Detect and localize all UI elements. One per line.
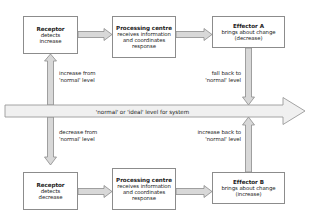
arrow-receptor-bottom-to-processing-bottom (78, 186, 112, 198)
node-effector-a[interactable]: Effector A brings about change (decrease… (212, 16, 285, 48)
label-increase-back-to-normal: increase back to 'normal' level (169, 129, 241, 143)
node-receptor-bottom-line2: decrease (39, 194, 63, 200)
arrow-processing-bottom-to-effector-b (176, 186, 212, 198)
node-processing-centre-bottom-line3: response (132, 195, 156, 201)
node-effector-b-line2: (increase) (235, 191, 261, 197)
node-processing-centre-top-line3: response (132, 43, 156, 49)
arrow-increase-back-to-normal (243, 117, 255, 172)
arrow-processing-top-to-effector-a (176, 29, 212, 41)
label-increase-back-to-normal-line2: 'normal' level (169, 136, 241, 143)
label-fall-back-to-normal-line1: fall back to (175, 70, 241, 77)
node-processing-centre-bottom[interactable]: Processing centre receives information a… (112, 168, 176, 210)
diagram-canvas: Receptor detects increase Processing cen… (0, 0, 310, 217)
label-fall-back-to-normal: fall back to 'normal' level (175, 70, 241, 84)
arrow-increase-from-normal (45, 54, 57, 105)
node-receptor-bottom[interactable]: Receptor detects decrease (23, 172, 78, 210)
normal-level-band-label: 'normal' or 'ideal' level for system (0, 106, 285, 118)
node-effector-b[interactable]: Effector B brings about change (increase… (212, 172, 285, 204)
arrow-fall-back-to-normal (243, 48, 255, 105)
node-processing-centre-top[interactable]: Processing centre receives information a… (112, 16, 176, 58)
label-decrease-from-normal-line2: 'normal' level (59, 136, 97, 143)
arrow-decrease-from-normal (45, 117, 57, 165)
label-increase-from-normal-line1: increase from (59, 70, 95, 77)
label-increase-from-normal-line2: 'normal' level (59, 77, 95, 84)
label-decrease-from-normal-line1: decrease from (59, 129, 97, 136)
label-fall-back-to-normal-line2: 'normal' level (175, 77, 241, 84)
label-increase-from-normal: increase from 'normal' level (59, 70, 95, 84)
label-increase-back-to-normal-line1: increase back to (169, 129, 241, 136)
node-receptor-top[interactable]: Receptor detects increase (23, 16, 78, 54)
node-receptor-top-line2: increase (39, 38, 61, 44)
arrow-receptor-top-to-processing-top (78, 29, 112, 41)
label-decrease-from-normal: decrease from 'normal' level (59, 129, 97, 143)
node-effector-a-line2: (decrease) (235, 35, 263, 41)
